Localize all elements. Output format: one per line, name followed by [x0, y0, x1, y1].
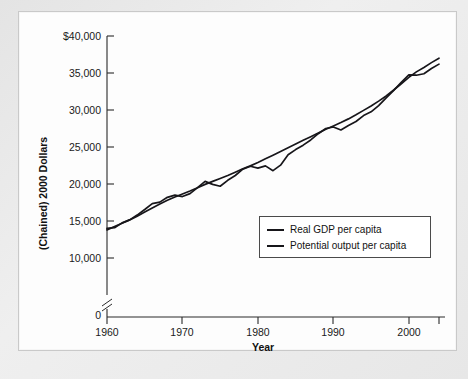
legend-line-swatch-icon [267, 245, 284, 247]
y-tick-label-zero: 0 [41, 310, 101, 321]
legend-line-swatch-icon [267, 229, 284, 231]
y-tick-label: 10,000 [41, 253, 101, 264]
x-tick-label: 1980 [238, 327, 278, 338]
line-potential-output-per-capita [107, 58, 439, 230]
x-tick-label: 1960 [87, 327, 127, 338]
data-series-group [107, 58, 439, 230]
plot-area: $40,000 35,000 30,000 25,000 20,000 15,0… [19, 12, 456, 350]
x-axis-title: Year [252, 341, 274, 353]
y-tick-label: 25,000 [41, 142, 101, 153]
x-tick-label: 1990 [313, 327, 353, 338]
figure-panel: $40,000 35,000 30,000 25,000 20,000 15,0… [18, 11, 457, 351]
x-tick-marks [107, 317, 439, 324]
y-axis-title: (Chained) 2000 Dollars [37, 137, 49, 250]
figure-page: $40,000 35,000 30,000 25,000 20,000 15,0… [0, 0, 468, 379]
legend-item-label: Potential output per capita [290, 241, 406, 251]
legend-item-real-gdp: Real GDP per capita [267, 222, 423, 238]
legend-item-label: Real GDP per capita [290, 225, 382, 235]
legend-item-potential-output: Potential output per capita [267, 238, 423, 254]
y-tick-label: 30,000 [41, 105, 101, 116]
y-tick-marks [107, 36, 114, 258]
x-tick-label: 1970 [162, 327, 202, 338]
line-real-gdp-per-capita [107, 64, 439, 228]
y-tick-label: $40,000 [41, 31, 101, 42]
legend: Real GDP per capita Potential output per… [259, 216, 431, 258]
y-tick-label: 15,000 [41, 216, 101, 227]
x-tick-label: 2000 [389, 327, 429, 338]
source-note [8, 360, 308, 374]
y-tick-label: 20,000 [41, 179, 101, 190]
y-tick-label: 35,000 [41, 68, 101, 79]
